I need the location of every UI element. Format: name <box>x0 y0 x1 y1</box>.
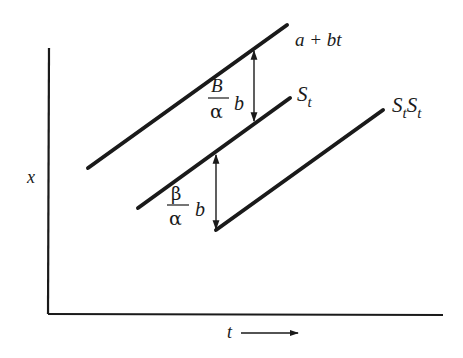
lower-gap-group: β α b <box>167 155 216 229</box>
lower-gap-numerator: β <box>171 183 181 204</box>
stst-label-base-2: S <box>407 93 418 117</box>
st-line-group: St <box>138 82 313 208</box>
upper-gap-denominator: α <box>210 100 223 122</box>
upper-gap-factor: b <box>234 92 244 114</box>
x-axis-label-group: t <box>227 322 298 342</box>
x-axis <box>48 314 443 315</box>
st-label-sub: t <box>308 94 313 110</box>
upper-gap-numerator: B <box>211 75 223 96</box>
lower-gap-denominator: α <box>169 207 182 229</box>
y-axis-label: x <box>26 167 35 187</box>
trend-line-label: a + bt <box>295 29 342 50</box>
st-label-base: S <box>297 82 308 106</box>
lower-gap-factor: b <box>195 198 205 220</box>
trend-line <box>88 25 287 168</box>
upper-gap-group: B α b <box>208 51 254 122</box>
st-line-label: St <box>297 82 313 110</box>
x-axis-label: t <box>227 322 233 342</box>
diagram-canvas: x t a + bt St StSt B α b β α b <box>0 0 463 358</box>
axes <box>48 48 443 315</box>
stst-label-base-1: S <box>392 93 403 117</box>
stst-label-sub-2: t <box>417 105 422 121</box>
stst-line-group: StSt <box>216 93 422 230</box>
stst-line-label: StSt <box>392 93 422 121</box>
y-axis <box>48 48 49 314</box>
stst-line <box>216 110 383 230</box>
